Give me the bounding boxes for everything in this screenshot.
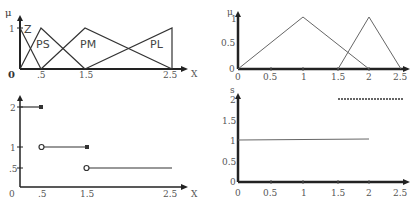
x-tick-0: 0 [235,72,241,82]
x-axis-arrow-icon [181,66,188,72]
y-axis-arrow-icon [17,95,23,101]
x-tick-25: 2.5 [393,72,408,82]
set-label-pm: PM [80,38,96,51]
x-tick-2: 2 [366,188,372,198]
y-axis-label: μ [5,7,12,18]
x-tick-05: 0.5 [263,72,278,82]
x-tick-0: 0 [235,188,241,198]
x-tick-05: 0.5 [263,188,278,198]
origin-label: 0 [8,69,15,80]
series-solid-line [238,139,369,140]
y-tick-15: 1.5 [222,116,237,126]
x-tick-25: 2.5 [163,70,178,80]
y-tick-05: 0.5 [222,157,237,167]
x-axis-arrow-icon [403,179,410,185]
open-endpoint-icon [84,166,89,171]
x-axis-label: X [191,69,198,79]
y-tick-0: 0 [230,177,236,187]
x-tick-2: 2 [366,72,372,82]
y-tick-2: 2 [10,103,16,113]
y-axis-label: s [230,85,235,95]
chart-step-function: 2 1 .5 0 .5 1.5 2.5 X [9,95,198,199]
origin-label: 0 [9,189,15,199]
x-tick-05: .5 [37,70,46,80]
x-tick-25: 2.5 [393,188,408,198]
x-tick-15: 1.5 [331,72,346,82]
open-endpoint-icon [39,145,44,150]
closed-endpoint-icon [85,145,89,149]
x-tick-15: 1.5 [80,189,95,199]
y-tick-1: 1 [231,14,237,24]
figure-canvas: μ 1 Z PS PM PL 0 .5 1.5 2.5 X μ 1 0.5 0 … [0,0,420,210]
y-tick-05: 0.5 [221,38,236,48]
chart-output-membership: μ 1 0.5 0 0 0.5 1 1.5 2 2.5 [221,7,410,82]
x-axis-arrow-icon [181,184,188,190]
series-triangle-1 [238,17,369,69]
series-triangle-2 [338,17,401,69]
closed-endpoint-icon [39,105,43,109]
set-label-z: Z [24,23,32,36]
x-axis-label: X [191,189,198,199]
x-tick-15: 1.5 [331,188,346,198]
chart-input-membership: μ 1 Z PS PM PL 0 .5 1.5 2.5 X [5,7,198,80]
y-tick-1: 1 [9,24,15,34]
y-tick-05: .5 [9,164,18,174]
x-tick-1: 1 [301,188,307,198]
set-label-ps: PS [36,38,50,51]
y-tick-1: 1 [230,136,236,146]
chart-s-output: s 2 1.5 1 0.5 0 0 0.5 1 1.5 2 2.5 [222,85,410,198]
x-tick-05: .5 [38,189,47,199]
set-label-pl: PL [150,38,164,51]
y-axis-arrow-icon [235,93,241,99]
x-tick-1: 1 [301,72,307,82]
y-tick-2: 2 [230,95,236,105]
y-tick-1: 1 [10,143,16,153]
y-axis-arrow-icon [17,15,23,21]
x-tick-25: 2.5 [163,189,178,199]
x-tick-15: 1.5 [79,70,94,80]
